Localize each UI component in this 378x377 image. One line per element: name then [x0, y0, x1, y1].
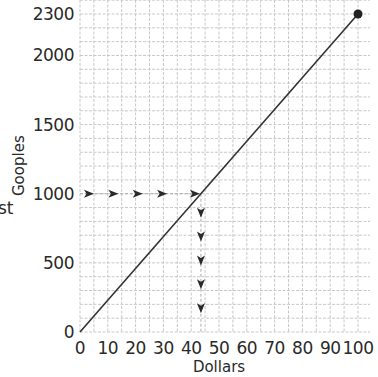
- x-tick-label: 30: [153, 338, 174, 358]
- x-tick-label: 80: [292, 338, 313, 358]
- arrow-down-icon: [197, 232, 205, 242]
- chart: 05001000150020002300 0102030405060708090…: [0, 0, 378, 377]
- x-tick-label: 10: [97, 338, 118, 358]
- y-axis-ticks: 05001000150020002300: [33, 4, 74, 342]
- x-tick-label: 100: [343, 338, 374, 358]
- x-tick-label: 90: [320, 338, 341, 358]
- y-tick-label: 1000: [33, 184, 74, 204]
- x-tick-label: 60: [236, 338, 257, 358]
- y-axis-label: Gooples: [10, 135, 28, 196]
- x-axis-label: Dollars: [193, 358, 245, 376]
- endpoint-marker: [354, 10, 363, 19]
- x-tick-label: 20: [125, 338, 146, 358]
- x-tick-label: 0: [75, 338, 85, 358]
- x-tick-label: 70: [264, 338, 285, 358]
- arrow-down-icon: [197, 255, 205, 265]
- cut-off-label: st: [0, 198, 14, 218]
- y-tick-label: 500: [43, 253, 74, 273]
- y-tick-label: 1500: [33, 115, 74, 135]
- y-tick-label: 2000: [33, 45, 74, 65]
- x-axis-ticks: 0102030405060708090100: [75, 338, 374, 358]
- x-tick-label: 40: [181, 338, 202, 358]
- y-tick-label: 0: [64, 322, 74, 342]
- y-tick-label: 2300: [33, 4, 74, 24]
- x-tick-label: 50: [209, 338, 230, 358]
